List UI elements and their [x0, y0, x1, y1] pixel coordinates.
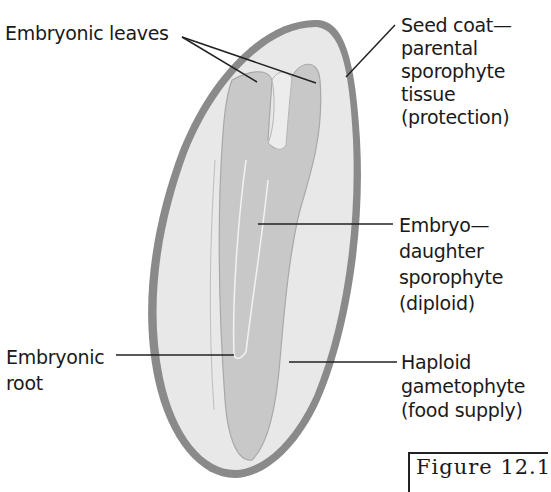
- label-embryonic-leaves: Embryonic leaves: [5, 22, 169, 44]
- label-haploid-gametophyte: Haploid gametophyte (food supply): [401, 350, 525, 422]
- label-embryonic-root: Embryonic root: [6, 344, 104, 396]
- label-embryo: Embryo— daughter sporophyte (diploid): [399, 212, 503, 316]
- label-seed-coat: Seed coat— parental sporophyte tissue (p…: [401, 14, 512, 129]
- figure-caption: Figure 12.1: [416, 455, 551, 479]
